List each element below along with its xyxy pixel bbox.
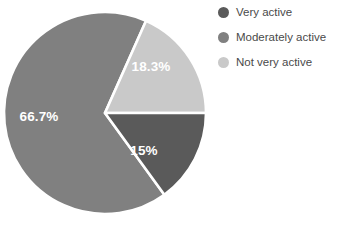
legend-label-very-active: Very active xyxy=(236,6,292,19)
legend-swatch-circle-icon-moderately-active xyxy=(218,32,229,43)
legend-item-moderately-active[interactable]: Moderately active xyxy=(218,30,346,45)
legend-label-not-very-active: Not very active xyxy=(236,56,312,69)
chart-legend: Very active Moderately active Not very a… xyxy=(218,5,346,70)
slice-value-label-moderately-active: 66.7% xyxy=(20,109,59,124)
slice-value-label-not-very-active: 18.3% xyxy=(132,59,171,74)
pie-svg: 18.3% 66.7% 15% xyxy=(0,0,215,227)
slice-value-label-very-active: 15% xyxy=(130,143,157,158)
legend-label-moderately-active: Moderately active xyxy=(236,31,326,44)
legend-swatch-circle-icon-very-active xyxy=(218,7,229,18)
legend-item-very-active[interactable]: Very active xyxy=(218,5,346,20)
legend-swatch-circle-icon-not-very-active xyxy=(218,57,229,68)
pie-chart-figure: 18.3% 66.7% 15% Very active Moderately a… xyxy=(0,0,346,227)
legend-item-not-very-active[interactable]: Not very active xyxy=(218,55,346,70)
pie-plot-area: 18.3% 66.7% 15% xyxy=(0,0,215,227)
